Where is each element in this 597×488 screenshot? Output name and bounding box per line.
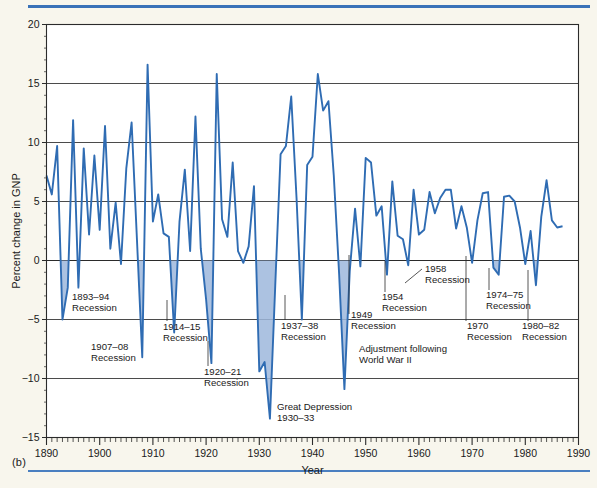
x-tick-label: 1920 [194,447,218,459]
x-tick-label: 1930 [248,447,272,459]
plot-background [47,25,579,438]
y-axis-ticks: −15−10−505101520 [22,18,47,443]
y-tick-label: 20 [28,18,40,30]
x-tick-label: 1960 [407,447,431,459]
y-tick-label: −15 [22,431,40,443]
y-axis-title-text: Percent change in GNP [10,173,22,289]
x-tick-label: 1990 [567,447,591,459]
y-tick-label: −5 [28,313,40,325]
x-tick-label: 1940 [301,447,325,459]
y-tick-label: −10 [22,372,40,384]
gnp-percent-change-chart: −15−10−505101520 18901900191019201930194… [0,0,597,488]
y-tick-label: 5 [34,195,40,207]
figure-panel: (b) −15−10−505101520 1890190019101920193… [0,0,597,488]
x-axis-title-text: Year [301,464,324,476]
y-tick-label: 15 [28,77,40,89]
x-tick-label: 1950 [354,447,378,459]
x-axis-ticks: 1890190019101920193019401950196019701980… [35,438,591,459]
x-tick-label: 1910 [141,447,165,459]
y-tick-label: 0 [34,254,40,266]
y-axis-title: Percent change in GNP [10,173,22,289]
y-tick-label: 10 [28,136,40,148]
x-tick-label: 1890 [35,447,59,459]
x-axis-title: Year [301,464,324,476]
x-tick-label: 1900 [88,447,112,459]
x-tick-label: 1970 [460,447,484,459]
x-tick-label: 1980 [514,447,538,459]
